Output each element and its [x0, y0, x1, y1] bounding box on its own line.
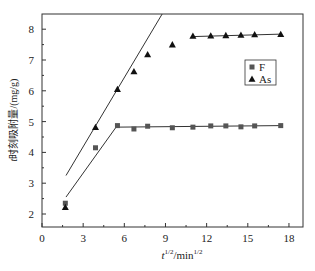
x-tick-label: 9 [163, 232, 169, 244]
data-point-f [145, 124, 150, 129]
axis-labels: t1/2/min1/2t时刻吸附量/(mg/g) [7, 79, 203, 261]
x-tick-label: 0 [39, 232, 45, 244]
data-point-as [144, 51, 151, 57]
data-point-f [131, 126, 136, 131]
fit-lines [66, 11, 281, 197]
fit-line-as [193, 34, 281, 36]
fit-line-as [66, 11, 164, 176]
y-axis-label: t时刻吸附量/(mg/g) [7, 79, 20, 162]
x-tick-label: 15 [242, 232, 254, 244]
y-tick-label: 5 [29, 116, 35, 128]
x-tick-label: 6 [122, 232, 128, 244]
x-tick-label: 3 [80, 232, 86, 244]
legend-marker-f [250, 65, 255, 70]
data-point-f [278, 123, 283, 128]
data-point-as [92, 124, 99, 130]
data-point-f [170, 125, 175, 130]
data-point-f [238, 124, 243, 129]
x-tick-label: 18 [283, 232, 295, 244]
data-point-as [130, 68, 137, 74]
legend-label-f: F [259, 61, 265, 73]
data-point-f [93, 145, 98, 150]
x-tick-label: 12 [201, 232, 212, 244]
x-axis-label: t1/2/min1/2 [161, 248, 203, 261]
y-tick-label: 8 [29, 23, 35, 35]
data-point-f [223, 123, 228, 128]
axis-ticks: 03691215182345678 [29, 23, 295, 244]
data-points [62, 31, 284, 210]
data-point-as [251, 31, 258, 37]
data-point-f [252, 123, 257, 128]
data-point-as [207, 32, 214, 38]
y-tick-label: 6 [29, 85, 35, 97]
y-tick-label: 4 [29, 146, 35, 158]
data-point-as [189, 32, 196, 38]
data-point-f [208, 123, 213, 128]
y-tick-label: 7 [29, 54, 35, 66]
legend: FAs [245, 60, 276, 85]
data-point-as [114, 86, 121, 92]
data-point-as [222, 32, 229, 38]
data-point-as [169, 41, 176, 47]
data-point-f [115, 123, 120, 128]
chart: 03691215182345678 FAs t1/2/min1/2t时刻吸附量/… [0, 0, 315, 271]
y-tick-label: 2 [29, 208, 35, 220]
legend-label-as: As [259, 73, 271, 85]
y-tick-label: 3 [29, 177, 35, 189]
data-point-f [190, 125, 195, 130]
